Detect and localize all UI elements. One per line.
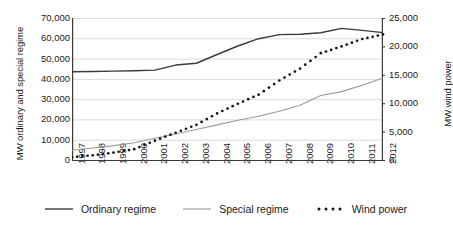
data-point — [133, 148, 136, 151]
data-point — [294, 70, 297, 73]
data-point — [237, 102, 240, 105]
data-point — [169, 133, 172, 136]
y-tick-label-right: 20,000 — [389, 41, 418, 51]
data-point — [91, 154, 94, 157]
y-tick-label-left: 30,000 — [41, 94, 70, 104]
data-point — [159, 137, 162, 140]
data-point — [335, 47, 338, 50]
data-point — [211, 115, 214, 118]
series-special-regime — [72, 78, 383, 150]
data-point — [200, 121, 203, 124]
data-point — [205, 118, 208, 121]
data-point — [76, 155, 79, 158]
legend-label: Wind power — [352, 203, 407, 215]
y-axis-title-left: MW ordinary and special regime — [14, 19, 25, 169]
legend-swatch — [182, 205, 212, 213]
plot-canvas — [72, 18, 385, 161]
data-point — [382, 33, 385, 36]
y-tick-label-right: 5,000 — [389, 127, 413, 137]
y-tick-label-left: 40,000 — [41, 74, 70, 84]
legend-swatch — [44, 205, 74, 213]
data-point — [268, 86, 271, 89]
data-point — [185, 127, 188, 130]
data-point — [304, 63, 307, 66]
legend-item[interactable]: Wind power — [315, 203, 407, 215]
y-tick-label-right: 10,000 — [389, 98, 418, 108]
data-point — [309, 60, 312, 63]
data-point — [283, 76, 286, 79]
data-point — [325, 50, 328, 53]
data-point — [340, 45, 343, 48]
data-point — [231, 105, 234, 108]
data-point — [107, 152, 110, 155]
x-tick-label: 2012 — [388, 143, 398, 164]
data-point — [174, 131, 177, 134]
y-tick-label-left: 0 — [65, 155, 70, 165]
data-point — [262, 90, 265, 93]
data-point — [345, 43, 348, 46]
data-point — [180, 129, 183, 132]
data-point — [143, 144, 146, 147]
plot-area — [72, 18, 383, 160]
data-point — [154, 139, 157, 142]
legend-item[interactable]: Special regime — [182, 203, 288, 215]
data-point — [299, 67, 302, 70]
data-point — [247, 98, 250, 101]
data-point — [356, 40, 359, 43]
data-point — [376, 34, 379, 37]
y-tick-label-left: 20,000 — [41, 114, 70, 124]
legend-swatch — [315, 205, 345, 213]
data-point — [164, 135, 167, 138]
series-wind-power — [72, 33, 384, 158]
data-point — [361, 38, 364, 41]
data-point — [112, 151, 115, 154]
data-point — [190, 125, 193, 128]
data-point — [288, 73, 291, 76]
data-point — [257, 93, 260, 96]
data-point — [195, 123, 198, 126]
data-point — [86, 154, 89, 157]
data-point — [242, 100, 245, 103]
data-point — [117, 150, 120, 153]
chart-legend: Ordinary regimeSpecial regimeWind power — [0, 199, 451, 219]
data-point — [97, 153, 100, 156]
data-point — [366, 37, 369, 40]
y-tick-label-right: 25,000 — [389, 13, 418, 23]
data-point — [128, 149, 131, 152]
data-point — [221, 110, 224, 113]
data-point — [351, 41, 354, 44]
data-point — [81, 155, 84, 158]
y-axis-title-right: MW wind power — [442, 19, 453, 169]
y-tick-label-left: 50,000 — [41, 54, 70, 64]
legend-label: Ordinary regime — [81, 203, 156, 215]
data-point — [148, 141, 151, 144]
data-point — [138, 146, 141, 149]
y-tick-label-left: 10,000 — [41, 135, 70, 145]
data-point — [330, 48, 333, 51]
data-point — [216, 112, 219, 115]
data-point — [252, 96, 255, 99]
y-tick-label-right: 15,000 — [389, 70, 418, 80]
data-point — [102, 153, 105, 156]
data-point — [273, 83, 276, 86]
data-point — [319, 52, 322, 55]
y-tick-label-left: 70,000 — [41, 13, 70, 23]
legend-item[interactable]: Ordinary regime — [44, 203, 156, 215]
y-tick-label-left: 60,000 — [41, 33, 70, 43]
data-point — [314, 56, 317, 59]
data-point — [226, 107, 229, 110]
series-ordinary-regime — [72, 28, 383, 71]
data-point — [122, 150, 125, 153]
data-point — [371, 35, 374, 38]
data-point — [278, 79, 281, 82]
legend-label: Special regime — [219, 203, 288, 215]
